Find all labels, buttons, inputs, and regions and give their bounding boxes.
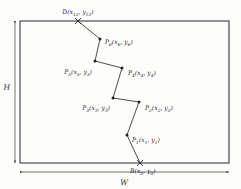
label-point-d: D(x12, y12) bbox=[61, 8, 94, 17]
label-point-p2: P2(x2, y2) bbox=[144, 104, 173, 113]
label-point-p4: P4(x4, y4) bbox=[127, 69, 156, 78]
label-point-p5: P5(x5, y5) bbox=[63, 68, 92, 77]
figure-canvas: H W D(x bbox=[0, 0, 241, 189]
marker-point-p5 bbox=[94, 60, 97, 63]
marker-point-p2 bbox=[138, 101, 141, 104]
point-labels: D(x12, y12) P6(x6, y6) P5(x5, y5) P4(x4,… bbox=[61, 8, 173, 176]
marker-point-p1 bbox=[126, 134, 129, 137]
marker-point-p6 bbox=[99, 38, 102, 41]
label-point-p6: P6(x6, y6) bbox=[104, 38, 133, 47]
height-label: H bbox=[3, 83, 11, 92]
width-label: W bbox=[120, 178, 129, 187]
height-dimension: H bbox=[3, 21, 15, 163]
label-point-b: B(x0, y0) bbox=[129, 167, 156, 176]
marker-point-p4 bbox=[121, 67, 124, 70]
geometry-figure: H W D(x bbox=[0, 0, 241, 189]
marker-point-p3 bbox=[112, 97, 115, 100]
label-point-p3: P3(x3, y3) bbox=[81, 104, 110, 113]
width-dimension: W bbox=[20, 172, 229, 187]
label-point-p1: P1(x1, y1) bbox=[131, 136, 160, 145]
